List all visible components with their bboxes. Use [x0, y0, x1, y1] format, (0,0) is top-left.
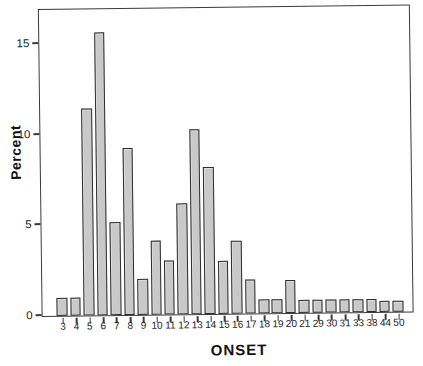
- bar: [366, 299, 377, 312]
- x-tick-label: 15: [217, 319, 231, 330]
- bar: [231, 241, 242, 314]
- x-tick-label: 29: [311, 318, 325, 329]
- x-tick-label: 6: [96, 320, 110, 331]
- y-tick-label: 0: [26, 308, 33, 322]
- x-axis-title: ONSET: [211, 341, 268, 359]
- y-axis: 051015: [0, 9, 42, 317]
- x-tick-label: 9: [137, 320, 151, 331]
- x-tick-label: 14: [204, 319, 218, 330]
- bar: [379, 301, 390, 312]
- bar: [189, 129, 202, 314]
- bar-column: [388, 6, 405, 312]
- bar: [70, 297, 81, 315]
- x-tick-label: 20: [285, 318, 299, 329]
- x-tick-label: 38: [365, 317, 379, 328]
- x-tick-label: 5: [83, 320, 97, 331]
- x-tick-label: 13: [191, 319, 205, 330]
- x-tick-label: 12: [177, 319, 191, 330]
- bar: [177, 204, 189, 315]
- y-tick-label: 10: [18, 127, 31, 141]
- chart-page: Percent 051015 3456789101112131415161718…: [0, 0, 423, 366]
- bars-container: [39, 6, 413, 316]
- bar: [164, 260, 175, 315]
- bar: [312, 300, 323, 313]
- x-tick-label: 11: [164, 319, 178, 330]
- x-tick-label: 31: [338, 317, 352, 328]
- x-tick-label: 33: [352, 317, 366, 328]
- x-tick-label: 10: [150, 320, 164, 331]
- plot-area: [38, 5, 414, 318]
- bar: [245, 279, 256, 314]
- bar: [326, 300, 337, 313]
- x-tick-label: 3: [56, 321, 70, 332]
- bar: [339, 300, 350, 313]
- bar: [393, 301, 404, 312]
- bar: [218, 261, 229, 314]
- x-tick-label: 21: [298, 318, 312, 329]
- bar: [150, 240, 161, 315]
- x-tick-label: 16: [231, 319, 245, 330]
- bar: [285, 280, 296, 313]
- x-tick-label: 8: [123, 320, 137, 331]
- x-tick-label: 44: [379, 317, 393, 328]
- bar: [258, 299, 269, 314]
- x-tick-label: 7: [110, 320, 124, 331]
- x-tick-label: 19: [271, 318, 285, 329]
- x-tick-label: 18: [258, 318, 272, 329]
- x-tick-label: 17: [244, 318, 258, 329]
- bar: [137, 278, 148, 314]
- bar: [203, 167, 215, 314]
- bar: [122, 148, 135, 315]
- y-tick-label: 15: [16, 36, 29, 50]
- scanned-chart: Percent 051015 3456789101112131415161718…: [0, 0, 423, 366]
- x-axis-labels: 3456789101112131415161718192021293031333…: [43, 317, 412, 333]
- bar: [272, 299, 283, 314]
- x-tick-label: 30: [325, 317, 339, 328]
- x-tick-label: 4: [70, 321, 84, 332]
- bar: [299, 300, 310, 313]
- bar: [81, 108, 94, 315]
- bar: [353, 299, 364, 312]
- y-tick-label: 5: [25, 217, 32, 231]
- x-tick-label: 50: [392, 317, 406, 328]
- bar: [57, 298, 68, 316]
- bar: [110, 223, 122, 316]
